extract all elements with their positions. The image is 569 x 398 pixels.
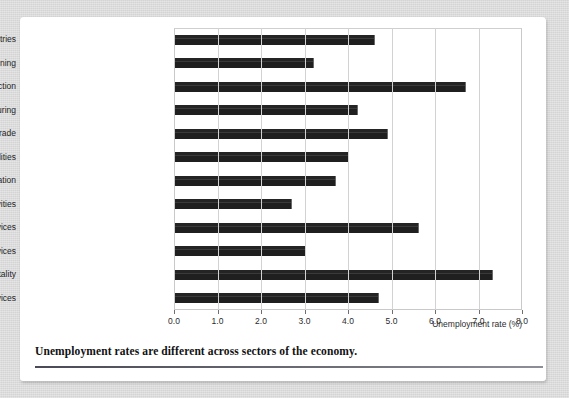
gridline (435, 28, 436, 310)
bar (175, 270, 493, 280)
gridline (305, 28, 306, 310)
bar-track (175, 52, 523, 76)
x-tick-mark (305, 310, 306, 314)
bar-row: Transportation and utilities (20, 146, 546, 170)
caption-divider (35, 366, 543, 368)
category-label: All industries (0, 28, 16, 52)
bar-track (175, 122, 523, 146)
category-label: Professional and business services (0, 216, 16, 240)
bar-track (175, 216, 523, 240)
category-label: Information (0, 169, 16, 193)
category-label: Construction (0, 75, 16, 99)
x-tick-mark (392, 310, 393, 314)
bar-row: Leisure and hospitality (20, 263, 546, 287)
x-tick-label: 1.0 (198, 316, 238, 326)
bar-row: All industries (20, 28, 546, 52)
bar-track (175, 193, 523, 217)
bar (175, 129, 388, 139)
x-tick-mark (261, 310, 262, 314)
bar-track (175, 75, 523, 99)
category-label: Leisure and hospitality (0, 263, 16, 287)
bar (175, 199, 292, 209)
gridline (392, 28, 393, 310)
bar-row: Other services (20, 287, 546, 311)
bar (175, 82, 466, 92)
bar-chart-figure: All industriesMiningConstructionManufact… (20, 17, 546, 333)
bar-row: Financial activities (20, 193, 546, 217)
x-tick-mark (348, 310, 349, 314)
bar (175, 152, 349, 162)
bar-track (175, 263, 523, 287)
bar (175, 35, 375, 45)
bar (175, 246, 306, 256)
x-tick-mark (174, 310, 175, 314)
gridline (261, 28, 262, 310)
bar-track (175, 169, 523, 193)
gridline (218, 28, 219, 310)
bar-row: Mining (20, 52, 546, 76)
gridline (348, 28, 349, 310)
bar-row: Construction (20, 75, 546, 99)
bar (175, 223, 419, 233)
x-tick-mark (479, 310, 480, 314)
bar-row: Manufacturing (20, 99, 546, 123)
category-label: Other services (0, 287, 16, 311)
bar-track (175, 146, 523, 170)
bar-track (175, 287, 523, 311)
category-label: Manufacturing (0, 99, 16, 123)
x-tick-label: 2.0 (241, 316, 281, 326)
category-label: Mining (0, 52, 16, 76)
bar-track (175, 28, 523, 52)
bar (175, 105, 358, 115)
gridline (479, 28, 480, 310)
caption-area: Unemployment rates are different across … (20, 339, 546, 381)
bar-track (175, 99, 523, 123)
bar-row: Education and health services (20, 240, 546, 264)
category-label: Transportation and utilities (0, 146, 16, 170)
x-tick-mark (435, 310, 436, 314)
bar-row: Professional and business services (20, 216, 546, 240)
bar-row: Wholesale and retail trade (20, 122, 546, 146)
x-tick-label: 0.0 (154, 316, 194, 326)
category-label: Financial activities (0, 193, 16, 217)
figure-caption: Unemployment rates are different across … (35, 345, 357, 357)
x-tick-mark (522, 310, 523, 314)
bar (175, 176, 336, 186)
x-tick-label: 3.0 (285, 316, 325, 326)
category-label: Education and health services (0, 240, 16, 264)
figure-card: All industriesMiningConstructionManufact… (20, 17, 546, 381)
category-label: Wholesale and retail trade (0, 122, 16, 146)
x-axis-title: Unemployment rate (%) (322, 319, 522, 329)
x-tick-mark (218, 310, 219, 314)
bar-row: Information (20, 169, 546, 193)
bar (175, 58, 314, 68)
bar-track (175, 240, 523, 264)
